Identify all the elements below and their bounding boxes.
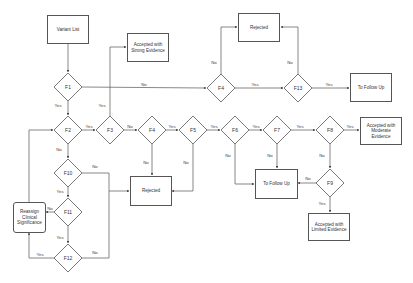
reassign-label: Reassign Clinical Significance [15, 209, 44, 225]
follow-up-right-box: To Follow Up [350, 73, 392, 102]
f4-top-label: F4 [218, 85, 224, 91]
f1-label: F1 [65, 84, 71, 90]
rejected-mid-label: Rejected [142, 188, 160, 193]
f3-label: F3 [107, 127, 113, 133]
follow-up-right-label: To Follow Up [358, 85, 385, 90]
f10-label: F10 [64, 170, 73, 176]
f13-yes-label: Yes [325, 82, 332, 87]
follow-up-mid-box: To Follow Up [255, 169, 298, 199]
f10-no-label: No [92, 164, 98, 169]
f8-yes-label: Yes [346, 124, 353, 129]
reassign-clinical-significance-box: Reassign Clinical Significance [13, 202, 46, 233]
accepted-limited-label: Accepted with Limited Evidence [310, 222, 348, 233]
f4-no-label: No [143, 160, 149, 165]
f10-yes-label: Yes [56, 189, 63, 194]
f7-yes-label: Yes [296, 124, 303, 129]
f1-no-label: No [141, 82, 147, 87]
f4top-yes-label: Yes [251, 82, 258, 87]
f7-label: F7 [274, 127, 280, 133]
rejected-top-label: Rejected [250, 25, 268, 30]
f6-no-label: No [225, 153, 231, 158]
f2-no-label: No [56, 147, 62, 152]
accepted-strong-evidence-box: Accepted with Strong Evidence [127, 33, 169, 62]
f9-yes-label: Yes [318, 201, 325, 206]
f3-yes-label: Yes [98, 103, 105, 108]
accepted-moderate-label: Accepted with Moderate Evidence [362, 123, 400, 139]
f7-no-label: No [267, 153, 273, 158]
variant-list-box: Variant List [47, 15, 89, 44]
f4top-no-label: No [211, 60, 217, 65]
f1-yes-label: Yes [54, 103, 61, 108]
f2-yes-label: Yes [85, 124, 92, 129]
follow-up-mid-label: To Follow Up [263, 181, 290, 186]
f3-no-label: No [127, 124, 133, 129]
accepted-limited-evidence-box: Accepted with Limited Evidence [308, 213, 350, 241]
rejected-top-box: Rejected [238, 13, 280, 42]
f8-label: F8 [327, 127, 333, 133]
f5-yes-label: Yes [210, 124, 217, 129]
rejected-mid-box: Rejected [130, 176, 172, 206]
f11-label: F11 [64, 209, 72, 215]
f9-no-label: No [305, 176, 311, 181]
f12-no-label: No [92, 250, 98, 255]
f11-yes-label: Yes [56, 235, 63, 240]
f6-label: F6 [232, 127, 238, 133]
f5-no-label: No [183, 160, 189, 165]
accepted-strong-label: Accepted with Strong Evidence [129, 42, 167, 53]
f11-no-label: No [47, 206, 53, 211]
accepted-moderate-evidence-box: Accepted with Moderate Evidence [360, 117, 402, 145]
f6-yes-label: Yes [252, 124, 259, 129]
f5-label: F5 [190, 127, 196, 133]
f4-label: F4 [149, 127, 155, 133]
f13-no-label: No [287, 60, 293, 65]
f13-label: F13 [294, 85, 303, 91]
f9-label: F9 [327, 180, 333, 186]
f4-yes-label: Yes [168, 124, 175, 129]
f12-yes-label: Yes [36, 252, 43, 257]
f12-label: F12 [64, 255, 73, 261]
variant-list-label: Variant List [57, 27, 80, 32]
f8-no-label: No [319, 153, 325, 158]
f2-label: F2 [65, 127, 71, 133]
